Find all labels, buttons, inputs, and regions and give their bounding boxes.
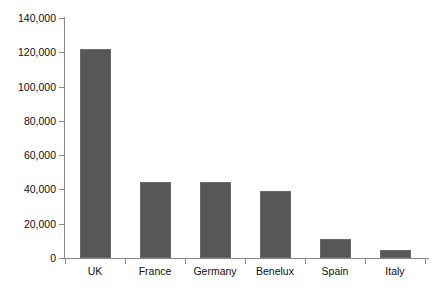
y-axis-tick-label-wrap: 0 xyxy=(0,258,56,259)
x-axis-tick xyxy=(365,259,366,264)
y-axis-tick-label: 120,000 xyxy=(2,47,56,58)
bar-uk xyxy=(80,49,111,258)
x-axis-tick xyxy=(125,259,126,264)
x-axis-tick xyxy=(425,259,426,264)
y-axis-tick-label-wrap: 120,000 xyxy=(0,52,56,53)
x-axis-tick-origin xyxy=(65,259,66,264)
plot-area xyxy=(65,18,428,258)
y-axis-tick-label-wrap: 80,000 xyxy=(0,121,56,122)
x-axis-category-label: Germany xyxy=(185,266,245,277)
bar-france xyxy=(140,182,171,258)
bar-spain xyxy=(320,239,351,258)
y-axis-tick-label: 60,000 xyxy=(2,150,56,161)
y-axis-tick-label-wrap: 140,000 xyxy=(0,18,56,19)
y-axis-tick-label: 100,000 xyxy=(2,82,56,93)
bar-benelux xyxy=(260,191,291,258)
x-axis-tick xyxy=(245,259,246,264)
y-axis-tick-label-wrap: 60,000 xyxy=(0,155,56,156)
y-axis-tick-label: 20,000 xyxy=(2,219,56,230)
bar-germany xyxy=(200,182,231,258)
x-axis-line xyxy=(64,258,429,259)
x-axis-tick xyxy=(185,259,186,264)
y-axis-tick-label: 40,000 xyxy=(2,184,56,195)
bar-italy xyxy=(380,250,411,258)
y-axis-tick-label: 0 xyxy=(2,253,56,264)
x-axis-category-label: Benelux xyxy=(245,266,305,277)
x-axis-category-label: France xyxy=(125,266,185,277)
y-axis-tick-label: 140,000 xyxy=(2,13,56,24)
y-axis-tick-label-wrap: 20,000 xyxy=(0,224,56,225)
x-axis-category-label: UK xyxy=(65,266,125,277)
x-axis-tick xyxy=(305,259,306,264)
y-axis-tick-label-wrap: 40,000 xyxy=(0,189,56,190)
y-axis-tick-label: 80,000 xyxy=(2,116,56,127)
x-axis-category-label: Spain xyxy=(305,266,365,277)
x-axis-category-label: Italy xyxy=(365,266,425,277)
y-axis-tick-label-wrap: 100,000 xyxy=(0,87,56,88)
bar-chart: 020,00040,00060,00080,000100,000120,0001… xyxy=(0,0,435,290)
